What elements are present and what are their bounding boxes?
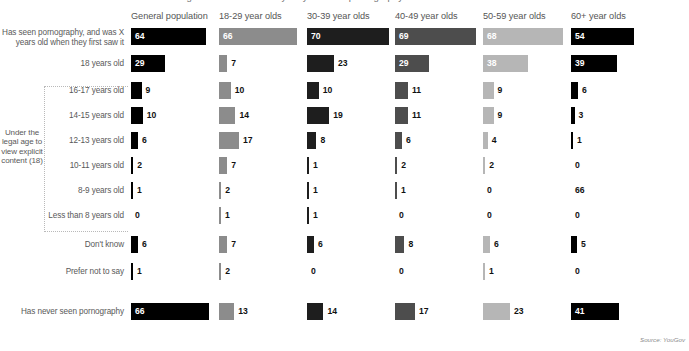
bar-c3-r10[interactable] bbox=[395, 303, 415, 320]
bar-c1-r8[interactable] bbox=[219, 236, 227, 253]
bar-c4-r8[interactable] bbox=[483, 236, 490, 253]
bar-c2-r2[interactable] bbox=[307, 82, 319, 99]
bar-c1-r6[interactable] bbox=[219, 182, 221, 199]
bar-value-c4-r6: 0 bbox=[487, 182, 492, 199]
bar-value-c1-r1: 7 bbox=[231, 55, 236, 72]
bar-c1-r7[interactable] bbox=[219, 207, 221, 224]
bar-value-c2-r5: 1 bbox=[313, 157, 318, 174]
bar-value-c0-r8: 6 bbox=[142, 236, 147, 253]
column-header-0: General population bbox=[131, 11, 208, 21]
bracket-label: Under the legal age to view explicit con… bbox=[0, 128, 44, 166]
bar-value-c0-r10: 66 bbox=[135, 303, 145, 320]
bar-value-c5-r1: 39 bbox=[575, 55, 585, 72]
bar-c2-r6[interactable] bbox=[307, 182, 309, 199]
column-header-5: 60+ year olds bbox=[571, 11, 626, 21]
bar-value-c4-r1: 38 bbox=[487, 55, 497, 72]
bar-value-c0-r6: 1 bbox=[137, 182, 142, 199]
bar-c4-r2[interactable] bbox=[483, 82, 494, 99]
bar-value-c1-r10: 13 bbox=[238, 303, 248, 320]
bar-value-c5-r10: 41 bbox=[575, 303, 585, 320]
bar-value-c5-r3: 3 bbox=[579, 107, 584, 124]
bar-value-c2-r0: 70 bbox=[311, 28, 321, 45]
bar-c1-r5[interactable] bbox=[219, 157, 227, 174]
bar-c4-r10[interactable] bbox=[483, 303, 510, 320]
bar-c2-r10[interactable] bbox=[307, 303, 323, 320]
bar-value-c5-r2: 6 bbox=[582, 82, 587, 99]
bar-c4-r3[interactable] bbox=[483, 107, 494, 124]
under-legal-age-bracket bbox=[44, 86, 128, 232]
bar-c3-r4[interactable] bbox=[395, 132, 402, 149]
bar-c0-r6[interactable] bbox=[131, 182, 133, 199]
bar-c0-r2[interactable] bbox=[131, 82, 142, 99]
bar-value-c3-r10: 17 bbox=[419, 303, 429, 320]
bar-c2-r4[interactable] bbox=[307, 132, 316, 149]
bar-value-c0-r5: 2 bbox=[137, 157, 142, 174]
bar-value-c3-r1: 29 bbox=[399, 55, 409, 72]
bar-value-c2-r10: 14 bbox=[327, 303, 337, 320]
bar-value-c4-r9: 1 bbox=[489, 263, 494, 280]
bar-value-c0-r3: 10 bbox=[147, 107, 157, 124]
row-label-10: Has never seen pornography bbox=[0, 307, 128, 317]
row-label-8: Don't know bbox=[0, 240, 128, 250]
bar-value-c1-r3: 14 bbox=[239, 107, 249, 124]
bar-value-c4-r2: 9 bbox=[498, 82, 503, 99]
bar-value-c1-r2: 10 bbox=[235, 82, 245, 99]
bar-value-c2-r1: 23 bbox=[338, 55, 348, 72]
bar-c0-r3[interactable] bbox=[131, 107, 143, 124]
bar-value-c0-r1: 29 bbox=[135, 55, 145, 72]
row-label-0: Has seen pornography, and was X years ol… bbox=[0, 28, 128, 47]
bar-c5-r2[interactable] bbox=[571, 82, 578, 99]
bar-c1-r10[interactable] bbox=[219, 303, 234, 320]
bar-c0-r8[interactable] bbox=[131, 236, 138, 253]
row-label-1: 18 years old bbox=[0, 59, 128, 69]
bar-c4-r4[interactable] bbox=[483, 132, 488, 149]
bar-value-c4-r8: 6 bbox=[494, 236, 499, 253]
bar-c1-r4[interactable] bbox=[219, 132, 239, 149]
column-header-4: 50-59 year olds bbox=[483, 11, 546, 21]
row-label-9: Prefer not to say bbox=[0, 267, 128, 277]
bar-c5-r8[interactable] bbox=[571, 236, 577, 253]
bar-c1-r1[interactable] bbox=[219, 55, 227, 72]
bar-c0-r5[interactable] bbox=[131, 157, 133, 174]
bar-c2-r3[interactable] bbox=[307, 107, 329, 124]
bar-c2-r8[interactable] bbox=[307, 236, 314, 253]
bar-c4-r5[interactable] bbox=[483, 157, 485, 174]
bar-value-c2-r8: 6 bbox=[318, 236, 323, 253]
bar-value-c2-r9: 0 bbox=[311, 263, 316, 280]
bar-value-c3-r2: 11 bbox=[412, 82, 421, 99]
column-header-1: 18-29 year olds bbox=[219, 11, 282, 21]
bar-c3-r2[interactable] bbox=[395, 82, 408, 99]
bar-value-c0-r9: 1 bbox=[137, 263, 142, 280]
bar-value-c3-r4: 6 bbox=[406, 132, 411, 149]
bar-value-c4-r5: 2 bbox=[489, 157, 494, 174]
bar-c4-r9[interactable] bbox=[483, 263, 485, 280]
bar-value-c2-r4: 8 bbox=[320, 132, 325, 149]
bar-c3-r8[interactable] bbox=[395, 236, 404, 253]
bar-c1-r2[interactable] bbox=[219, 82, 231, 99]
bar-c3-r6[interactable] bbox=[395, 182, 397, 199]
bar-c3-r5[interactable] bbox=[395, 157, 397, 174]
bar-c1-r3[interactable] bbox=[219, 107, 235, 124]
bar-c0-r4[interactable] bbox=[131, 132, 138, 149]
bar-value-c4-r4: 4 bbox=[492, 132, 497, 149]
bar-c5-r3[interactable] bbox=[571, 107, 575, 124]
bar-value-c2-r2: 10 bbox=[323, 82, 333, 99]
bar-value-c1-r6: 2 bbox=[225, 182, 230, 199]
chart-title-cutoff: Age at which Britons say they first saw … bbox=[180, 0, 520, 3]
bar-value-c5-r5: 0 bbox=[575, 157, 580, 174]
bar-value-c3-r0: 69 bbox=[399, 28, 409, 45]
bar-c2-r1[interactable] bbox=[307, 55, 334, 72]
bar-value-c5-r0: 54 bbox=[575, 28, 585, 45]
bar-value-c2-r7: 1 bbox=[313, 207, 318, 224]
bar-value-c1-r5: 7 bbox=[231, 157, 236, 174]
bar-c3-r3[interactable] bbox=[395, 107, 408, 124]
bar-value-c5-r9: 0 bbox=[575, 263, 580, 280]
column-header-2: 30-39 year olds bbox=[307, 11, 370, 21]
bar-value-c3-r3: 11 bbox=[412, 107, 421, 124]
bar-c2-r5[interactable] bbox=[307, 157, 309, 174]
bar-value-c1-r8: 7 bbox=[231, 236, 236, 253]
bar-c2-r7[interactable] bbox=[307, 207, 309, 224]
bar-c5-r4[interactable] bbox=[571, 132, 573, 149]
bar-c1-r9[interactable] bbox=[219, 263, 221, 280]
bar-c0-r9[interactable] bbox=[131, 263, 133, 280]
